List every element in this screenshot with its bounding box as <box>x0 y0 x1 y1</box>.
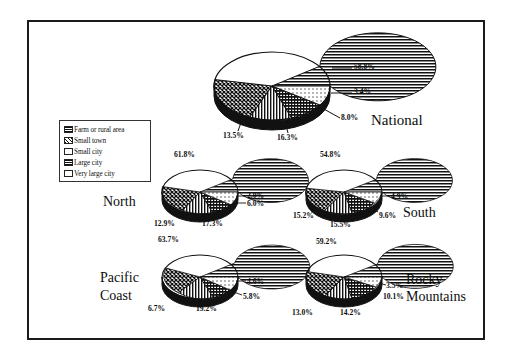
south-pct-very-large-city: 4.9% <box>391 192 408 201</box>
south-pct-farm: 54.8% <box>320 150 341 159</box>
legend-label-small-town: Small town <box>74 137 106 145</box>
legend-item-small-town: Small town <box>64 135 147 146</box>
legend-swatch-very-large-city-icon <box>64 170 73 177</box>
pacific-pct-small-town: 6.7% <box>148 304 165 313</box>
region-label-pacific-coast-line1: Pacific <box>100 270 139 286</box>
rocky-pct-small-town: 13.0% <box>292 308 313 317</box>
legend-swatch-small-city-icon <box>64 148 73 155</box>
region-label-rocky-mountains-line1: Rocky <box>406 272 443 288</box>
legend-item-small-city: Small city <box>64 146 147 157</box>
pacific-pct-small-city: 19.2% <box>196 304 217 313</box>
region-label-national: National <box>371 112 423 128</box>
legend-label-small-city: Small city <box>74 148 102 156</box>
legend-item-farm-or-rural-area: Farm or rural area <box>64 124 147 135</box>
legend-label-large-city: Large city <box>74 159 102 167</box>
pacific-pct-large-city: 5.8% <box>243 292 260 301</box>
national-pct-farm: 58.8% <box>354 62 375 71</box>
pacific-pct-farm: 63.7% <box>158 235 179 244</box>
rocky-pct-small-city: 14.2% <box>340 308 361 317</box>
legend-label-farm: Farm or rural area <box>74 126 124 134</box>
north-pct-farm: 61.8% <box>174 150 195 159</box>
legend-swatch-small-town-icon <box>64 137 73 144</box>
national-pct-small-town: 13.5% <box>223 131 244 140</box>
pacific-pct-very-large-city: 4.6% <box>247 277 264 286</box>
rocky-pct-large-city: 10.1% <box>383 292 404 301</box>
legend-label-very-large-city: Very large city <box>74 170 115 178</box>
region-label-north: North <box>103 194 136 210</box>
legend-swatch-large-city-icon <box>64 159 73 166</box>
region-label-rocky-mountains-line2: Mountains <box>406 289 466 305</box>
legend-item-very-large-city: Very large city <box>64 168 147 179</box>
south-pct-small-city: 15.5% <box>330 220 351 229</box>
north-pct-small-town: 12.9% <box>154 219 175 228</box>
figure-root: Farm or rural area Small town Small city… <box>0 0 515 359</box>
north-pct-small-city: 17.3% <box>202 219 223 228</box>
national-pct-small-city: 16.3% <box>277 133 298 142</box>
pie-pacific-coast <box>162 245 310 307</box>
national-pct-large-city: 8.0% <box>341 113 358 122</box>
north-pct-large-city: 6.0% <box>247 199 264 208</box>
chart-legend: Farm or rural area Small town Small city… <box>59 120 151 182</box>
legend-item-large-city: Large city <box>64 157 147 168</box>
national-pct-very-large-city: 3.4% <box>354 87 371 96</box>
rocky-pct-very-large-city: 3.5% <box>386 281 403 290</box>
pie-north <box>162 159 309 222</box>
legend-swatch-farm-icon <box>64 126 73 133</box>
region-label-south: South <box>403 205 436 221</box>
rocky-pct-farm: 59.2% <box>316 237 337 246</box>
region-label-pacific-coast-line2: Coast <box>100 288 132 304</box>
south-pct-large-city: 9.6% <box>379 211 396 220</box>
south-pct-small-town: 15.2% <box>293 211 314 220</box>
